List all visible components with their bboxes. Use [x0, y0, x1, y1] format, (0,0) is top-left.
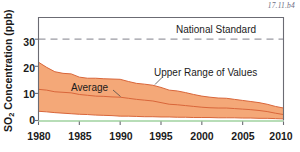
y-axis-title-prefix: SO [2, 117, 14, 132]
x-tick-1990: 1990 [104, 130, 138, 142]
y-axis-title-suffix: Concentration (ppb) [2, 9, 14, 112]
x-tick-1980: 1980 [22, 130, 56, 142]
y-tick-10: 10 [18, 88, 35, 100]
x-tick-2010: 2010 [264, 130, 298, 142]
x-tick-2000: 2000 [185, 130, 219, 142]
x-tick-1985: 1985 [63, 130, 97, 142]
upper-range-leader-line [155, 78, 162, 85]
figure-id-label: 17.11.b4 [268, 1, 295, 10]
y-tick-0: 0 [18, 114, 35, 126]
y-axis-title-subscript: 2 [7, 113, 16, 117]
y-tick-30: 30 [18, 36, 35, 48]
upper-range-label: Upper Range of Values [154, 67, 257, 78]
average-label: Average [71, 82, 108, 93]
y-tick-20: 20 [18, 62, 35, 74]
national-standard-label: National Standard [176, 24, 256, 35]
so2-concentration-chart: 17.11.b4 SO2 Concentration (ppb) 0 10 20… [0, 0, 300, 152]
x-tick-1995: 1995 [144, 130, 178, 142]
x-tick-2005: 2005 [226, 130, 260, 142]
y-axis-title: SO2 Concentration (ppb) [2, 9, 14, 132]
